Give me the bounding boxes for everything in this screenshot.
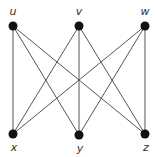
node-v (75, 22, 84, 31)
node-y (75, 131, 84, 140)
node-u (9, 22, 18, 31)
node-label-u: u (10, 5, 17, 18)
node-label-w: w (141, 5, 150, 18)
node-z (141, 130, 150, 139)
node-label-v: v (76, 5, 83, 18)
node-label-x: x (10, 141, 18, 154)
edges-group (13, 26, 145, 135)
node-w (141, 22, 150, 31)
node-label-y: y (76, 142, 84, 155)
node-x (9, 130, 18, 139)
bipartite-graph: uvwxyz (0, 0, 156, 157)
node-label-z: z (142, 141, 149, 154)
